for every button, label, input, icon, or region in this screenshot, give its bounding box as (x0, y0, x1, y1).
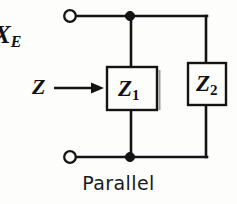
junction-dot-icon-bottom (125, 152, 134, 161)
arrow-right-icon-head (91, 83, 104, 94)
source-impedance-label: Z (32, 76, 45, 98)
junction-dot-icon-top (125, 11, 134, 20)
impedance-one-label-base: Z (118, 76, 132, 101)
reactance-label-subscript: E (11, 33, 22, 50)
reactance-label: XE (0, 22, 21, 50)
impedance-two-label-subscript: 2 (210, 82, 218, 98)
impedance-two-label: Z2 (196, 72, 218, 98)
impedance-one-label: Z1 (118, 77, 140, 103)
parallel-impedance-figure: XE Z Z1 Z2 Parallel (0, 0, 237, 204)
open-circle-terminal-icon-top (64, 10, 76, 22)
figure-caption: Parallel (0, 174, 237, 193)
impedance-two-label-base: Z (196, 71, 210, 96)
reactance-label-base: X (0, 21, 11, 48)
impedance-one-label-subscript: 1 (132, 87, 140, 103)
open-circle-terminal-icon-bottom (64, 151, 76, 163)
